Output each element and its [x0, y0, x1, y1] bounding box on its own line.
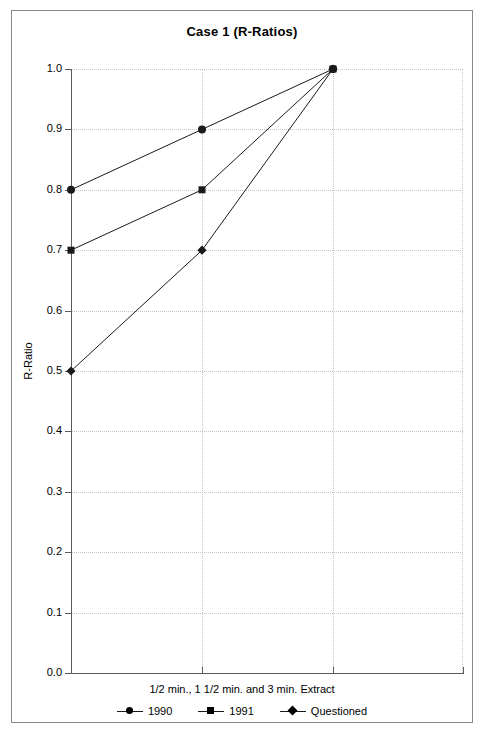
legend-marker-square-icon [198, 706, 224, 716]
chart-frame: Case 1 (R-Ratios) 1.0 0.9 0.8 0.7 0.6 [11, 10, 473, 723]
legend-label: 1991 [229, 705, 253, 717]
legend-marker-diamond-icon [280, 706, 306, 716]
legend-item-questioned[interactable]: Questioned [280, 705, 367, 717]
legend-item-1990[interactable]: 1990 [117, 705, 172, 717]
legend-marker-circle-icon [117, 706, 143, 716]
chart-legend: 1990 1991 Questioned [12, 705, 472, 717]
legend-item-1991[interactable]: 1991 [198, 705, 253, 717]
data-point-1990 [67, 186, 75, 194]
data-point-1991 [68, 247, 75, 254]
series-line-1991 [71, 69, 333, 250]
series-layer [12, 11, 474, 724]
data-point-1990 [198, 125, 206, 133]
legend-label: Questioned [311, 705, 367, 717]
legend-label: 1990 [148, 705, 172, 717]
data-point-1991 [199, 186, 206, 193]
series-line-questioned [71, 69, 333, 371]
